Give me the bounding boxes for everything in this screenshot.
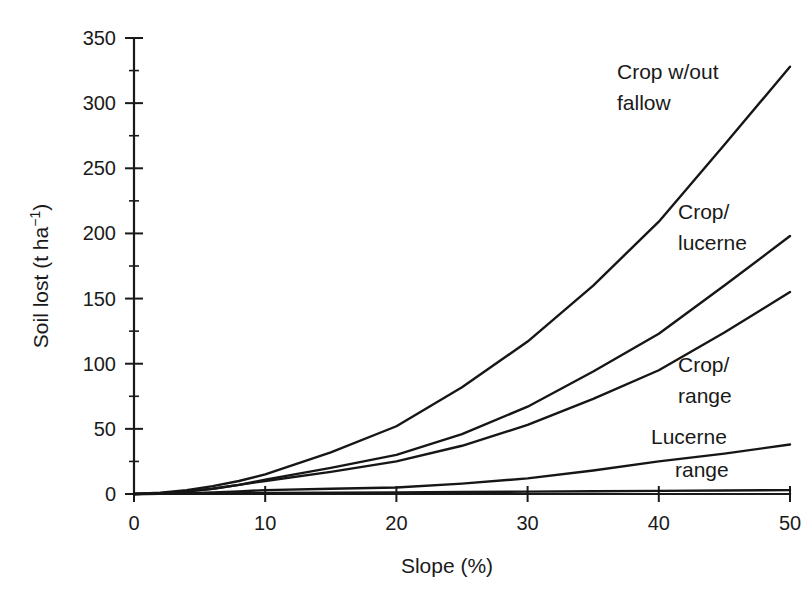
x-axis-tick-label: 10	[254, 512, 276, 534]
x-axis-tick-label: 0	[128, 512, 139, 534]
series-annotation: fallow	[617, 91, 672, 114]
y-axis-tick-label: 150	[83, 288, 116, 310]
series-annotation: Lucerne	[651, 425, 727, 448]
x-axis-tick-label: 30	[516, 512, 538, 534]
series-annotation: Crop w/out	[617, 60, 719, 83]
y-axis-tick-label: 250	[83, 157, 116, 179]
chart-figure: 05010015020025030035001020304050 Crop w/…	[0, 0, 812, 607]
y-axis-tick-label: 300	[83, 92, 116, 114]
y-axis-tick-label: 200	[83, 222, 116, 244]
x-axis-tick-label: 20	[385, 512, 407, 534]
series-annotations: Crop w/outfallowCrop/lucerneCrop/rangeLu…	[617, 60, 747, 481]
x-axis-title: Slope (%)	[401, 554, 493, 577]
y-axis-tick-label: 0	[105, 483, 116, 505]
soil-loss-line-chart: 05010015020025030035001020304050 Crop w/…	[0, 0, 812, 607]
x-axis-tick-label: 50	[779, 512, 801, 534]
series-annotation: Crop/	[678, 353, 730, 376]
series-annotation: Crop/	[678, 200, 730, 223]
y-axis-title: Soil lost (t ha−1)	[27, 204, 52, 348]
x-axis-tick-label: 40	[648, 512, 670, 534]
series-annotation: range	[678, 384, 732, 407]
series-annotation: range	[675, 458, 729, 481]
y-axis-tick-label: 100	[83, 353, 116, 375]
y-axis-tick-label: 350	[83, 27, 116, 49]
series-annotation: lucerne	[678, 231, 747, 254]
y-axis-tick-label: 50	[94, 418, 116, 440]
